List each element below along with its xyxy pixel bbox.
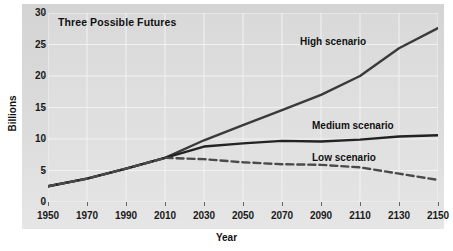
y-axis-label: Billions: [7, 79, 18, 149]
x-tick-label: 2110: [338, 210, 382, 221]
x-tick-mark: [399, 202, 400, 206]
x-tick-label: 2090: [299, 210, 343, 221]
x-tick-label: 2050: [221, 210, 265, 221]
y-tick-mark: [43, 202, 46, 203]
x-tick-mark: [204, 202, 205, 206]
x-tick-mark: [360, 202, 361, 206]
y-tick-mark: [43, 13, 46, 14]
x-tick-mark: [126, 202, 127, 206]
series-label-medium: Medium scenario: [312, 120, 394, 131]
x-tick-mark: [48, 202, 49, 206]
x-tick-label: 2150: [416, 210, 453, 221]
chart-title: Three Possible Futures: [58, 16, 176, 28]
x-tick-mark: [438, 202, 439, 206]
x-axis: 1950197019902010203020502070209021102130…: [48, 202, 438, 228]
x-axis-label: Year: [0, 232, 453, 243]
y-tick-mark: [43, 45, 46, 46]
x-tick-label: 1990: [104, 210, 148, 221]
plot-svg: [48, 13, 438, 202]
x-tick-mark: [321, 202, 322, 206]
series-label-high: High scenario: [300, 36, 366, 47]
x-tick-mark: [87, 202, 88, 206]
series-label-low: Low scenario: [312, 152, 376, 163]
x-tick-mark: [282, 202, 283, 206]
x-tick-label: 2030: [182, 210, 226, 221]
y-axis: 051015202530: [14, 13, 46, 202]
x-tick-mark: [165, 202, 166, 206]
chart-figure: 051015202530 195019701990201020302050207…: [0, 0, 453, 251]
y-tick-mark: [43, 139, 46, 140]
y-tick-mark: [43, 171, 46, 172]
y-tick-mark: [43, 108, 46, 109]
x-tick-label: 2070: [260, 210, 304, 221]
x-tick-label: 2130: [377, 210, 421, 221]
x-tick-label: 1970: [65, 210, 109, 221]
plot-area: [48, 13, 438, 202]
x-tick-label: 1950: [26, 210, 70, 221]
y-tick-mark: [43, 76, 46, 77]
x-tick-label: 2010: [143, 210, 187, 221]
x-tick-mark: [243, 202, 244, 206]
